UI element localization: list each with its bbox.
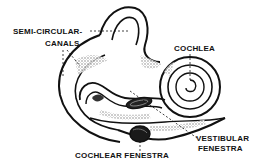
inner-ear-diagram: SEMI-CIRCULAR- CANALS COCHLEA VESTIBULAR… — [0, 0, 265, 168]
vestibular-fenestra-label: VESTIBULAR — [196, 134, 249, 143]
semicircular-canals-label: SEMI-CIRCULAR- — [13, 27, 82, 36]
semicircular-canals-shape — [59, 7, 225, 142]
semicircular-canals-label-line2: CANALS — [45, 39, 80, 48]
vestibular-fenestra-label-line2: FENESTRA — [198, 144, 243, 153]
cochlea-label: COCHLEA — [174, 44, 215, 53]
cochlear-fenestra-label: COCHLEAR FENESTRA — [75, 151, 169, 160]
cochlear-fenestra-shape — [130, 126, 150, 142]
